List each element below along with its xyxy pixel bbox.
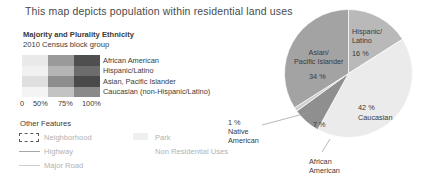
pie-value-hispanic-latino: 16 % bbox=[352, 49, 369, 58]
pie-label-hispanic-line2: Latino bbox=[352, 36, 372, 45]
feature-label-neighborhood: Neighborhood bbox=[44, 133, 92, 142]
pie-value-native-american: 1 % bbox=[228, 118, 241, 127]
filled-swatch-icon bbox=[133, 133, 148, 140]
pie-label-african-line1: African bbox=[309, 157, 332, 166]
ethnicity-pie-chart bbox=[283, 8, 414, 139]
swatch-r3-c2 bbox=[74, 87, 100, 98]
feature-label-non-residential-uses: Non Residential Uses bbox=[155, 147, 228, 156]
swatch-r3-c0 bbox=[22, 87, 48, 98]
feature-label-park: Park bbox=[155, 133, 171, 142]
scale-tick-0: 0 bbox=[20, 99, 24, 108]
solid-line-icon bbox=[19, 151, 40, 152]
pie-label-hispanic-line1: Hispanic/ bbox=[352, 27, 382, 36]
feature-label-highway: Highway bbox=[44, 147, 73, 156]
ethnicity-label-asian-pacific-islander: Asian, Pacific Islander bbox=[103, 77, 176, 86]
pie-label-asian-line1: Asian/ bbox=[309, 48, 329, 57]
pie-value-caucasian: 42 % bbox=[358, 103, 375, 112]
leader-line-african-american bbox=[322, 139, 330, 152]
scale-tick-50: 50% bbox=[33, 99, 48, 108]
pie-svg bbox=[283, 8, 414, 139]
swatch-r0-c2 bbox=[74, 55, 100, 66]
swatch-r2-c0 bbox=[22, 76, 48, 87]
scale-tick-100: 100% bbox=[82, 99, 101, 108]
ethnicity-label-caucasian: Caucasian (non-Hispanic/Latino) bbox=[103, 87, 210, 96]
swatch-r1-c2 bbox=[74, 66, 100, 77]
feature-label-major-road: Major Road bbox=[44, 161, 83, 170]
pie-label-african-line2: American bbox=[309, 166, 340, 175]
infographic-canvas: This map depicts population within resid… bbox=[0, 0, 429, 184]
pie-label-native-american: 1 % Native American bbox=[228, 118, 259, 146]
pie-value-asian-pacific-islander: 34 % bbox=[309, 72, 326, 81]
pie-label-caucasian: Caucasian bbox=[358, 113, 392, 122]
swatch-r3-c1 bbox=[48, 87, 74, 98]
pie-label-asian-line2: Pacific Islander bbox=[294, 57, 343, 66]
light-line-icon bbox=[19, 165, 40, 166]
swatch-r2-c1 bbox=[48, 76, 74, 87]
dashed-rectangle-icon bbox=[19, 133, 39, 142]
swatch-r0-c1 bbox=[48, 55, 74, 66]
pie-label-asian-pacific-islander: Asian/ Pacific Islander bbox=[294, 48, 343, 66]
page-title: This map depicts population within resid… bbox=[25, 5, 293, 17]
pie-label-native-line1: Native bbox=[228, 127, 249, 136]
legend-heading: Majority and Plurality Ethnicity bbox=[23, 30, 134, 39]
swatch-r0-c0 bbox=[22, 55, 48, 66]
pie-label-african-american: African American bbox=[309, 157, 340, 175]
scale-tick-75: 75% bbox=[58, 99, 73, 108]
other-features-heading: Other Features bbox=[20, 119, 71, 128]
ethnicity-color-matrix bbox=[22, 55, 100, 97]
legend-subheading: 2010 Census block group bbox=[23, 40, 109, 49]
pie-value-african-american: 7 % bbox=[313, 120, 326, 129]
pie-label-native-line2: American bbox=[228, 136, 259, 145]
swatch-r1-c0 bbox=[22, 66, 48, 77]
swatch-r1-c1 bbox=[48, 66, 74, 77]
pie-slice-group bbox=[285, 10, 413, 138]
swatch-r2-c2 bbox=[74, 76, 100, 87]
ethnicity-label-african-american: African American bbox=[103, 56, 159, 65]
pie-label-hispanic-latino: Hispanic/ Latino bbox=[352, 27, 382, 45]
ethnicity-label-hispanic-latino: Hispanic/Latino bbox=[103, 66, 154, 75]
